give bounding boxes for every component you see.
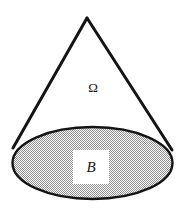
cone-interior-label: Ω: [0, 81, 186, 94]
cone-figure: Ω B: [0, 0, 186, 215]
base-region-label: B: [73, 160, 109, 175]
